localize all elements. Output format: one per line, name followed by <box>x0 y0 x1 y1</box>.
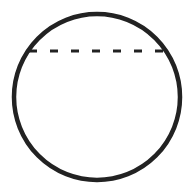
outer-circle <box>14 14 180 180</box>
circle-with-dashed-chord-diagram <box>0 0 194 195</box>
